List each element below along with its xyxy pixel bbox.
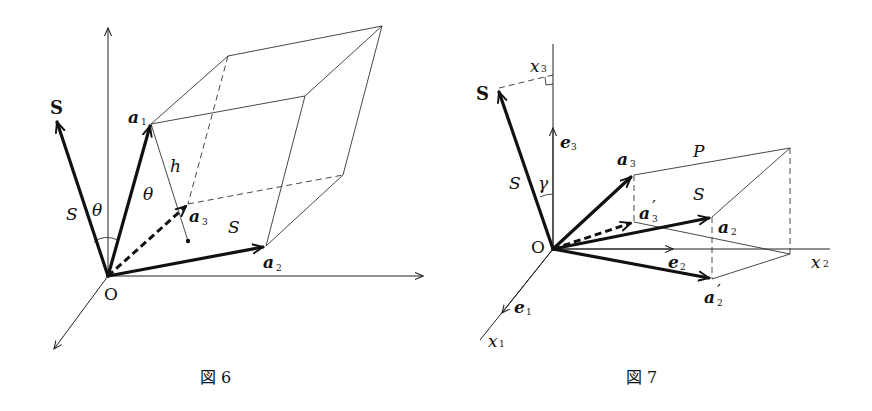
svg-text:1: 1 — [141, 117, 147, 127]
fig7-label-origin: O — [531, 237, 545, 257]
fig7-basis-e1 — [502, 249, 553, 313]
fig6-label-S-area: S — [228, 217, 240, 237]
svg-text:1: 1 — [499, 339, 505, 349]
fig6-vector-S — [57, 122, 108, 276]
fig6-label-a1: a 1 — [128, 107, 147, 127]
svg-text:e: e — [560, 132, 571, 152]
svg-text:x: x — [811, 252, 821, 272]
fig7-label-a3-prime: a 3 ′ — [639, 196, 658, 224]
fig6-label-h: h — [170, 156, 181, 176]
fig7-label-S-vector: S — [476, 83, 489, 104]
fig7-angle-arc — [540, 194, 553, 197]
svg-text:a: a — [128, 107, 139, 127]
fig6-vector-a2 — [108, 247, 263, 276]
fig7-vector-S — [499, 92, 553, 249]
fig7-label-P: P — [692, 141, 705, 161]
fig7-label-e2: e 2 — [668, 252, 686, 272]
svg-text:3: 3 — [541, 64, 547, 74]
figure-7: x 3 S e 3 S γ a 3 P S a 3 ′ a 2 O e 2 — [476, 44, 830, 387]
svg-text:a: a — [617, 149, 628, 169]
fig6-label-theta-inner: θ — [143, 184, 153, 204]
fig7-label-x3: x 3 — [530, 56, 547, 76]
svg-text:a: a — [639, 203, 650, 223]
fig6-label-theta-origin: θ — [92, 200, 102, 220]
fig6-vector-a3 — [108, 206, 186, 276]
svg-text:′: ′ — [717, 280, 721, 300]
fig6-label-origin: O — [104, 284, 118, 304]
fig6-parallelepiped — [151, 26, 382, 246]
fig7-vector-a2 — [553, 218, 709, 249]
svg-text:a: a — [189, 206, 200, 226]
svg-text:′: ′ — [652, 196, 656, 216]
fig6-label-S-magnitude: S — [66, 204, 78, 224]
svg-text:a: a — [718, 217, 729, 237]
fig6-axis-depth — [54, 276, 108, 349]
svg-text:3: 3 — [202, 217, 208, 227]
svg-text:a: a — [263, 252, 274, 272]
fig7-label-S-magnitude: S — [509, 173, 521, 193]
fig7-label-x1: x 1 — [488, 331, 505, 351]
fig7-label-a3: a 3 — [617, 149, 636, 169]
fig6-caption: 図 6 — [200, 368, 231, 387]
fig6-label-S-vector: S — [50, 97, 63, 118]
svg-text:2: 2 — [680, 262, 686, 272]
svg-text:3: 3 — [630, 159, 636, 169]
fig7-label-S-area: S — [693, 184, 705, 204]
svg-text:2: 2 — [823, 259, 829, 269]
svg-text:e: e — [514, 297, 525, 317]
fig7-projection-S — [499, 75, 553, 88]
fig7-label-e3: e 3 — [560, 132, 577, 152]
fig6-height-foot-dot — [186, 239, 190, 243]
svg-text:x: x — [530, 56, 540, 76]
fig7-label-gamma: γ — [538, 173, 549, 193]
fig7-label-e1: e 1 — [514, 297, 532, 317]
fig7-label-x2: x 2 — [811, 252, 829, 272]
fig7-vector-a3 — [553, 177, 631, 249]
fig7-right-angle-mark — [545, 77, 553, 85]
figure-6: S S θ θ h a 1 a 3 a 2 S O 図 6 — [50, 26, 423, 387]
diagram-canvas: S S θ θ h a 1 a 3 a 2 S O 図 6 — [0, 0, 872, 411]
fig7-label-a2-prime: a 2 ′ — [704, 280, 723, 308]
fig7-label-a2: a 2 — [718, 217, 737, 237]
svg-text:x: x — [488, 331, 498, 351]
svg-text:a: a — [704, 287, 715, 307]
svg-text:3: 3 — [571, 142, 577, 152]
fig7-caption: 図 7 — [626, 368, 657, 387]
fig6-label-a3: a 3 — [189, 206, 208, 227]
svg-text:2: 2 — [731, 227, 737, 237]
fig6-height-line — [151, 124, 188, 241]
svg-text:2: 2 — [276, 263, 282, 273]
svg-text:e: e — [668, 252, 679, 272]
svg-text:1: 1 — [526, 307, 532, 317]
fig6-label-a2: a 2 — [263, 252, 282, 273]
